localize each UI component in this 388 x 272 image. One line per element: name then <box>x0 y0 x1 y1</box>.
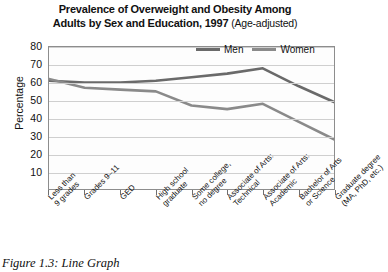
x-axis-category-label: High schoolgraduate <box>155 166 197 208</box>
legend-label: Men <box>224 44 243 55</box>
x-axis-tick <box>48 190 49 195</box>
x-axis-tick <box>120 190 121 195</box>
chart-legend: MenWomen <box>196 44 315 55</box>
legend-item-men: Men <box>196 44 243 55</box>
x-axis-category-label: Grades 9–11 <box>83 164 121 202</box>
x-axis-tick <box>156 190 157 195</box>
legend-swatch-icon <box>196 48 220 51</box>
x-axis-category-label: Less than9 grades <box>47 171 84 208</box>
figure-caption: Figure 1.3: Line Graph <box>2 256 120 271</box>
x-axis-tick <box>335 190 336 195</box>
x-axis-tick <box>263 190 264 195</box>
legend-item-women: Women <box>252 44 314 55</box>
x-axis-category-label: GED <box>119 184 137 202</box>
legend-label: Women <box>280 44 314 55</box>
x-axis-tick <box>84 190 85 195</box>
x-axis-tick <box>192 190 193 195</box>
legend-swatch-icon <box>252 48 276 51</box>
x-axis-tick <box>227 190 228 195</box>
x-axis-tick <box>299 190 300 195</box>
